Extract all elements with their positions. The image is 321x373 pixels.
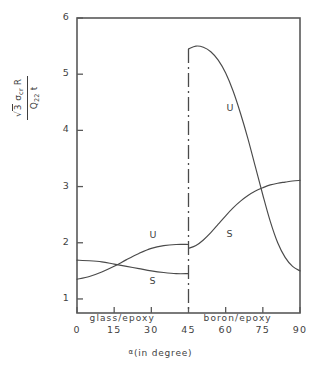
y-tick-label: 3	[45, 180, 70, 191]
y-axis-den-t: t	[29, 87, 39, 91]
y-axis-num-three: 3	[12, 104, 23, 112]
x-tick-label: 60	[211, 324, 241, 335]
x-tick-label: 15	[99, 324, 129, 335]
y-axis-den-Q-subscript: 22	[33, 93, 41, 102]
x-tick-label: 0	[62, 324, 92, 335]
y-axis-den-Q: Q	[29, 102, 39, 109]
region-label-boron-epoxy: boron/epoxy	[204, 313, 272, 323]
chart-figure: 123456 0153045607590 USUS glass/epoxybor…	[0, 0, 321, 373]
y-tick-label: 6	[45, 11, 70, 22]
x-axis-title-text: (in degree)	[134, 348, 192, 358]
y-axis-title: √3 σcr R Q22 t	[7, 43, 47, 153]
y-axis-fraction: √3 σcr R Q22 t	[13, 76, 41, 120]
y-tick-label: 1	[45, 292, 70, 303]
y-axis-num-sigma-subscript: cr	[17, 88, 25, 95]
y-axis-ticks	[77, 18, 83, 299]
x-tick-label: 90	[285, 324, 315, 335]
y-axis-numerator: √3 σcr R	[13, 76, 26, 120]
x-axis-title: α(in degree)	[0, 348, 321, 358]
y-axis-num-sigma: σ	[13, 95, 23, 101]
curve-s	[77, 260, 189, 274]
x-tick-label: 30	[136, 324, 166, 335]
curve-u	[77, 244, 189, 279]
y-tick-label: 2	[45, 236, 70, 247]
y-tick-label: 5	[45, 67, 70, 78]
x-tick-label: 45	[174, 324, 204, 335]
x-tick-label: 75	[248, 324, 278, 335]
y-axis-denominator: Q22 t	[28, 84, 41, 112]
region-label-glass-epoxy: glass/epoxy	[90, 313, 155, 323]
sqrt-icon: √	[13, 111, 23, 117]
y-tick-label: 4	[45, 123, 70, 134]
curve-label-u: U	[150, 229, 157, 240]
curve-u	[189, 46, 301, 271]
curve-label-s: S	[226, 228, 232, 239]
curve-s	[189, 180, 301, 248]
y-axis-num-R: R	[13, 79, 23, 85]
curve-label-s: S	[150, 275, 156, 286]
curve-label-u: U	[226, 102, 233, 113]
